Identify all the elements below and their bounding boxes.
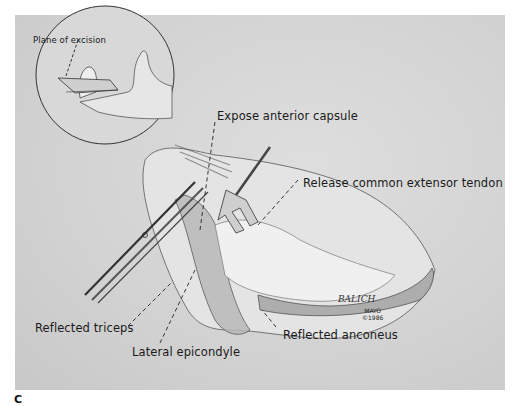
copyright-year: ©1986 (362, 314, 383, 321)
panel-letter: C (14, 393, 22, 406)
label-release-common-extensor-tendon: Release common extensor tendon (303, 176, 503, 190)
label-reflected-triceps: Reflected triceps (35, 321, 134, 335)
label-expose-anterior-capsule: Expose anterior capsule (217, 109, 358, 123)
artist-signature: BALICH (338, 296, 375, 303)
elbow-anatomy (143, 145, 435, 338)
leader-reflected-triceps (128, 282, 172, 326)
label-plane-of-excision: Plane of excision (33, 35, 106, 45)
signature-institution-block: MAYO ©1986 (362, 307, 383, 321)
inset-magnified-view (36, 6, 174, 144)
label-lateral-epicondyle: Lateral epicondyle (132, 345, 240, 359)
institution-name: MAYO (362, 307, 383, 314)
artist-name: BALICH (338, 296, 375, 303)
label-reflected-anconeus: Reflected anconeus (283, 328, 398, 342)
